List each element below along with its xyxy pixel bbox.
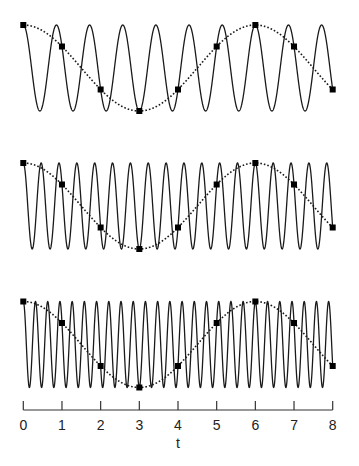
aliasing-chart: 012345678 t [0, 0, 359, 466]
sample-marker [330, 363, 336, 369]
x-axis-title: t [176, 435, 180, 451]
sample-marker [175, 363, 181, 369]
x-tick-label: 8 [329, 417, 337, 433]
x-tick-label: 0 [19, 417, 27, 433]
continuous-signal-line [23, 302, 332, 388]
sample-marker [98, 363, 104, 369]
sample-marker [20, 160, 26, 166]
x-tick-label: 2 [97, 417, 105, 433]
continuous-signal-line [23, 163, 332, 249]
sample-marker [59, 44, 65, 50]
sample-marker [214, 44, 220, 50]
x-tick-label: 3 [135, 417, 143, 433]
continuous-signal-line [23, 25, 332, 111]
sample-marker [136, 108, 142, 114]
sample-marker [291, 320, 297, 326]
sample-marker [214, 320, 220, 326]
sample-marker [291, 182, 297, 188]
x-tick-label: 5 [213, 417, 221, 433]
x-axis: 012345678 t [19, 401, 336, 451]
sample-marker [59, 182, 65, 188]
x-tick-label: 4 [174, 417, 182, 433]
sample-marker [20, 299, 26, 305]
sample-markers [20, 22, 335, 114]
sample-marker [175, 225, 181, 231]
sample-marker [214, 182, 220, 188]
sample-marker [291, 44, 297, 50]
x-axis-ticks [23, 401, 332, 410]
sample-marker [175, 87, 181, 93]
sample-marker [136, 385, 142, 391]
sample-marker [98, 225, 104, 231]
sample-marker [59, 320, 65, 326]
sample-marker [252, 299, 258, 305]
panel-1 [20, 22, 335, 114]
sample-marker [252, 160, 258, 166]
alias-signal-dotted-line [23, 25, 332, 111]
panel-3 [20, 299, 335, 391]
sample-marker [20, 22, 26, 28]
panel-2 [20, 160, 335, 252]
sample-marker [98, 87, 104, 93]
x-tick-label: 7 [290, 417, 298, 433]
sample-marker [330, 87, 336, 93]
x-axis-tick-labels: 012345678 [19, 417, 336, 433]
x-tick-label: 1 [58, 417, 66, 433]
x-tick-label: 6 [251, 417, 259, 433]
sample-marker [252, 22, 258, 28]
sample-marker [136, 246, 142, 252]
sample-marker [330, 225, 336, 231]
